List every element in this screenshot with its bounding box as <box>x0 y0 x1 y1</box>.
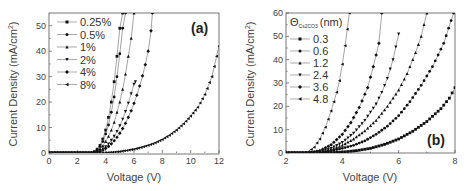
circle-marker-icon <box>447 27 450 30</box>
square-marker-icon <box>394 139 397 142</box>
x-tick-label: 12 <box>214 156 224 166</box>
circle-marker-icon <box>107 124 110 127</box>
diamond-marker-icon <box>127 116 131 120</box>
triangle-up-marker-icon <box>118 100 121 103</box>
triangle-left-marker-icon <box>191 112 194 115</box>
legend-item: 2.4 <box>290 69 328 81</box>
circle-marker-icon <box>440 48 443 51</box>
triangle-up-marker-icon <box>397 88 400 91</box>
series-2% <box>47 80 136 154</box>
square-marker-icon <box>383 143 386 146</box>
triangle-down-marker-icon <box>380 91 383 94</box>
square-marker-icon <box>347 150 350 153</box>
diamond-marker-icon <box>357 106 361 110</box>
triangle-down-marker-icon <box>338 143 341 146</box>
legend-label: 0.25% <box>80 16 111 28</box>
triangle-left-marker-icon <box>203 93 206 96</box>
legend-label: 3.6 <box>313 81 328 93</box>
square-marker-icon <box>389 141 392 144</box>
triangle-down-marker-icon <box>335 144 338 147</box>
circle-marker-icon <box>363 139 366 142</box>
circle-marker-icon <box>445 34 448 37</box>
triangle-up-marker-icon <box>355 135 358 138</box>
diamond-marker-icon <box>129 109 133 113</box>
square-marker-icon <box>110 101 113 104</box>
circle-marker-icon <box>452 12 455 15</box>
y-tick-label: 20 <box>273 101 283 111</box>
legend-label: 8% <box>80 79 96 91</box>
square-marker-icon <box>299 38 302 41</box>
series-1.2 <box>284 11 428 154</box>
circle-marker-icon <box>425 75 428 78</box>
triangle-up-marker-icon <box>121 88 124 91</box>
square-marker-icon <box>66 21 69 24</box>
triangle-down-marker-icon <box>130 92 133 95</box>
x-tick-label: 4 <box>340 156 345 166</box>
triangle-left-marker-icon <box>298 97 301 100</box>
circle-marker-icon <box>437 54 440 57</box>
diamond-marker-icon <box>310 151 314 155</box>
diamond-marker-icon <box>138 84 142 88</box>
square-marker-icon <box>361 148 364 151</box>
legend-label: 0.3 <box>313 33 328 45</box>
triangle-up-marker-icon <box>352 137 355 140</box>
circle-marker-icon <box>420 84 423 87</box>
circle-marker-icon <box>406 104 409 107</box>
circle-marker-icon <box>378 131 381 134</box>
square-marker-icon <box>355 149 358 152</box>
legend-label: 1% <box>80 41 96 53</box>
triangle-down-marker-icon <box>386 77 389 80</box>
circle-marker-icon <box>380 129 383 132</box>
diamond-marker-icon <box>298 85 302 89</box>
diamond-marker-icon <box>366 86 370 90</box>
triangle-down-marker-icon <box>127 102 130 105</box>
square-marker-icon <box>448 97 451 100</box>
series-3.6 <box>284 11 383 155</box>
axis-ticks-a: 02468101201020304050 <box>36 21 224 166</box>
diamond-marker-icon <box>104 147 108 151</box>
square-marker-icon <box>411 130 414 133</box>
square-marker-icon <box>406 133 409 136</box>
y-tick-label: 10 <box>36 123 46 133</box>
diamond-marker-icon <box>141 74 145 78</box>
x-tick-label: 8 <box>452 156 457 166</box>
circle-marker-icon <box>104 133 107 136</box>
circle-marker-icon <box>352 144 355 147</box>
triangle-left-marker-icon <box>196 106 199 109</box>
x-tick-label: 6 <box>396 156 401 166</box>
square-marker-icon <box>428 118 431 121</box>
x-axis-label-a: Voltage (V) <box>107 171 161 183</box>
square-marker-icon <box>121 12 124 15</box>
circle-marker-icon <box>392 120 395 123</box>
diamond-marker-icon <box>121 127 125 131</box>
circle-marker-icon <box>349 145 352 148</box>
legend-a: 0.25%0.5%1%2%4%8% <box>57 16 111 91</box>
chart-panel-a: 02468101201020304050 0.25%0.5%1%2%4%8% (… <box>7 11 224 183</box>
triangle-up-marker-icon <box>420 35 423 38</box>
diamond-marker-icon <box>380 11 384 15</box>
x-tick-label: 2 <box>75 156 80 166</box>
legend-label: 0.5% <box>80 29 105 41</box>
legend-item: 0.25% <box>57 16 111 28</box>
triangle-down-marker-icon <box>394 45 397 48</box>
x-axis-label-b: Voltage (V) <box>343 171 397 183</box>
diamond-marker-icon <box>349 121 353 125</box>
y-tick-label: 0 <box>41 148 46 158</box>
circle-marker-icon <box>361 141 364 144</box>
square-marker-icon <box>397 138 400 141</box>
triangle-up-marker-icon <box>344 142 347 145</box>
circle-marker-icon <box>101 140 104 143</box>
x-tick-label: 4 <box>103 156 108 166</box>
square-marker-icon <box>344 150 347 153</box>
square-marker-icon <box>414 128 417 131</box>
x-tick-label: 0 <box>46 156 51 166</box>
legend-b: 0.30.61.22.43.64.8 <box>290 33 328 105</box>
square-marker-icon <box>400 136 403 139</box>
diamond-marker-icon <box>352 116 356 120</box>
triangle-down-marker-icon <box>118 124 121 127</box>
triangle-up-marker-icon <box>110 128 113 131</box>
circle-marker-icon <box>417 88 420 91</box>
y-axis-label-a: Current Density (mA/cm2) <box>7 22 19 147</box>
circle-marker-icon <box>397 114 400 117</box>
square-marker-icon <box>366 147 369 150</box>
